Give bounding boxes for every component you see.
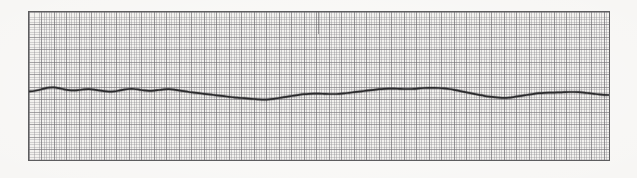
ecg-chart-frame[interactable] [28,11,610,161]
ecg-strip-page [0,0,637,178]
ecg-trace-plot[interactable] [29,12,610,161]
ecg-trace-line [29,87,610,99]
